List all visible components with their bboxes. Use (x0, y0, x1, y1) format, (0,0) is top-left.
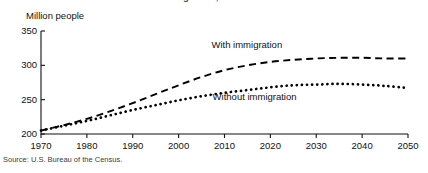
x-tick-label: 2010 (205, 140, 245, 151)
y-tick-label: 350 (13, 25, 37, 36)
x-tick-label: 2050 (388, 140, 428, 151)
x-tick-label: 2030 (296, 140, 336, 151)
y-tick-label: 250 (13, 94, 37, 105)
series-label-with-immigration: With immigration (211, 39, 282, 50)
x-tick-label: 2040 (342, 140, 382, 151)
population-projection-chart: immigration, 1970-2050 Million people 20… (0, 0, 428, 173)
x-tick-label: 2020 (250, 140, 290, 151)
series-label-without-immigration: Without immigration (213, 91, 297, 102)
y-tick-label: 300 (13, 59, 37, 70)
source-note: Source: U.S. Bureau of the Census. (3, 155, 122, 164)
x-tick-label: 1970 (21, 140, 61, 151)
x-tick-label: 1980 (67, 140, 107, 151)
x-tick-label: 1990 (113, 140, 153, 151)
x-tick-label: 2000 (159, 140, 199, 151)
y-tick-label: 200 (13, 128, 37, 139)
